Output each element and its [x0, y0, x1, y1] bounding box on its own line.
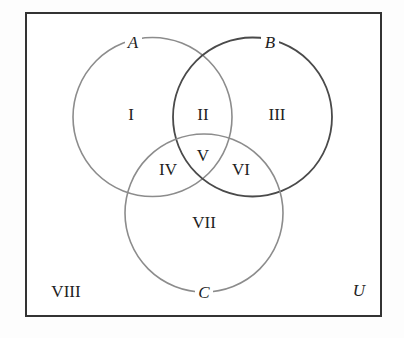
- set-b-label: B: [265, 33, 276, 52]
- region-iii-label: III: [269, 105, 286, 124]
- region-iv-label: IV: [159, 160, 178, 179]
- region-vii-label: VII: [192, 213, 216, 232]
- region-vi-label: VI: [232, 160, 250, 179]
- region-i-label: I: [128, 105, 134, 124]
- set-c-label: C: [198, 283, 210, 302]
- region-ii-label: II: [197, 105, 209, 124]
- region-viii-label: VIII: [51, 282, 81, 301]
- venn-diagram: A B C I II III IV V VI VII VIII U: [0, 0, 404, 338]
- universe-label: U: [353, 281, 367, 300]
- set-a-label: A: [127, 33, 139, 52]
- region-v-label: V: [197, 146, 210, 165]
